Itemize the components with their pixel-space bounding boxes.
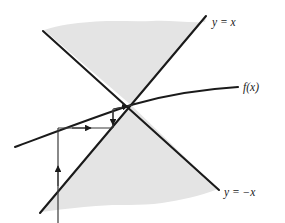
shaded-lower-cone xyxy=(41,105,218,212)
figure-container: y = x f(x) y = −x xyxy=(0,0,285,223)
label-line-identity: y = x xyxy=(211,16,237,29)
shaded-upper-cone xyxy=(44,17,206,105)
shaded-region-group xyxy=(41,17,218,212)
label-line-negative-identity: y = −x xyxy=(223,186,256,199)
cobweb-diagram: y = x f(x) y = −x xyxy=(0,0,285,223)
label-curve-function: f(x) xyxy=(243,81,259,94)
